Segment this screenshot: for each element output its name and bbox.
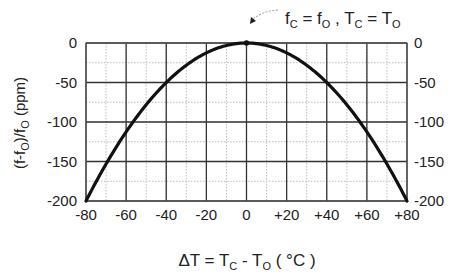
annotation-arrow-icon [250,10,278,24]
x-tick-label: -80 [75,206,97,223]
x-tick-labels: -80-60-40-200+20+40+60+80 [75,206,420,223]
y-axis-label: (f-fO)/fO (ppm) [11,77,31,169]
y-tick-label-right: -200 [414,192,444,209]
y-tick-label: -100 [47,113,77,130]
y-tick-label: -200 [47,192,77,209]
x-tick-label: +20 [274,206,299,223]
peak-marker [244,40,250,46]
y-tick-label-right: -150 [414,153,444,170]
x-tick-label: +60 [354,206,379,223]
x-tick-label: +40 [314,206,339,223]
y-tick-label: 0 [69,34,77,51]
y-tick-label-right: -50 [414,74,436,91]
x-tick-label: 0 [242,206,250,223]
x-tick-label: -40 [155,206,177,223]
x-tick-label: -60 [115,206,137,223]
x-tick-label: -20 [196,206,218,223]
y-tick-label-right: 0 [414,34,422,51]
annotation-text: fC = fO , TC = TO [285,9,401,30]
parabolic-frequency-chart: -80-60-40-200+20+40+60+80 0-50-100-150-2… [0,0,458,276]
y-tick-label: -50 [55,74,77,91]
y-tick-labels-left: 0-50-100-150-200 [47,34,77,209]
y-tick-label: -150 [47,153,77,170]
y-tick-labels-right: 0-50-100-150-200 [414,34,444,209]
x-axis-label: ΔT = TC - TO ( °C ) [178,251,315,272]
y-tick-label-right: -100 [414,113,444,130]
